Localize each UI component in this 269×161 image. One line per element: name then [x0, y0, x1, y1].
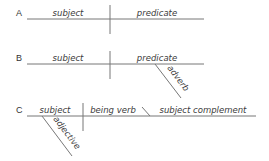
complement-divider: [142, 107, 150, 116]
subject-word: subject: [53, 8, 84, 18]
predicate-word: predicate: [136, 53, 177, 63]
subject-word: subject: [40, 105, 71, 115]
diagram-c: C subject being verb subject complement …: [16, 103, 256, 156]
sentence-diagrams: A subject predicate B subject predicate …: [0, 0, 269, 161]
complement-word: subject complement: [160, 105, 248, 115]
diagram-label: B: [16, 53, 22, 63]
adverb-word: adverb: [165, 63, 191, 93]
predicate-word: predicate: [136, 8, 177, 18]
diagram-label: C: [16, 105, 23, 115]
diagram-a: A subject predicate: [16, 5, 204, 34]
diagram-b: B subject predicate adverb: [16, 51, 204, 98]
diagram-label: A: [16, 8, 22, 18]
verb-word: being verb: [90, 105, 136, 115]
subject-word: subject: [53, 53, 84, 63]
adjective-word: adjective: [51, 114, 82, 151]
